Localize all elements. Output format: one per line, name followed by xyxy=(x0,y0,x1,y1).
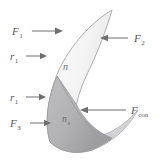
label-force-2-symbol: F xyxy=(133,32,141,44)
label-force-1: F1 xyxy=(11,25,23,40)
figure-container: F1 r1 r1 F3 F2 Fcon xyxy=(0,0,165,164)
label-radius-upper: r1 xyxy=(10,50,19,65)
label-radius-lower: r1 xyxy=(10,91,19,106)
label-force-3: F3 xyxy=(9,117,21,132)
label-force-2-subscript: 2 xyxy=(141,39,145,47)
label-force-3-symbol: F xyxy=(9,117,17,129)
arrow-F1 xyxy=(32,28,63,35)
label-region-outer-symbol: n xyxy=(63,61,68,72)
arrow-Fcon xyxy=(80,107,126,113)
label-radius-upper-subscript: 1 xyxy=(15,57,19,65)
label-region-inner-symbol: n xyxy=(62,113,67,124)
label-radius-lower-subscript: 1 xyxy=(15,98,19,106)
label-region-inner-subscript: s xyxy=(68,119,71,127)
label-force-3-subscript: 3 xyxy=(17,124,21,132)
label-force-1-subscript: 1 xyxy=(19,32,23,40)
label-force-1-symbol: F xyxy=(11,25,19,37)
arrow-r1-upper xyxy=(26,53,47,59)
crescent-force-diagram: F1 r1 r1 F3 F2 Fcon xyxy=(0,0,165,164)
label-region-outer: n xyxy=(63,61,68,72)
label-force-2: F2 xyxy=(133,32,145,47)
arrow-F2 xyxy=(100,35,128,41)
arrow-r1-lower xyxy=(26,94,46,100)
label-force-contact-symbol: F xyxy=(130,104,138,116)
label-force-contact-subscript: con xyxy=(138,111,149,119)
